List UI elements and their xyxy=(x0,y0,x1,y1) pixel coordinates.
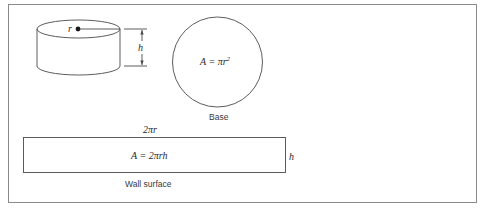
radius-label: r xyxy=(68,24,72,34)
center-point xyxy=(76,27,81,32)
cylinder-surface-area-diagram xyxy=(0,0,480,208)
height-dimension xyxy=(124,29,147,66)
wall-caption: Wall surface xyxy=(125,180,171,189)
cylinder-height-label: h xyxy=(138,43,143,53)
wall-width-label: 2πr xyxy=(143,125,157,135)
base-formula: A = πr2 xyxy=(200,57,230,67)
wall-formula: A = 2πrh xyxy=(131,151,167,161)
base-formula-exponent: 2 xyxy=(227,55,231,63)
base-caption: Base xyxy=(209,113,228,122)
wall-height-label: h xyxy=(289,152,294,162)
base-formula-text: A = πr xyxy=(200,56,227,67)
